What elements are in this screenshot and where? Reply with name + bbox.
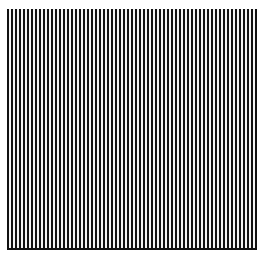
stripe-grating-pattern	[7, 9, 257, 250]
canvas: vertical-stripe-grating	[0, 0, 263, 254]
